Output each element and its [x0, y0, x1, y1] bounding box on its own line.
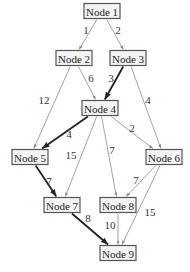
edge-weight-5-7: 7: [46, 175, 52, 187]
edge-weight-3-6: 4: [145, 94, 151, 106]
edge-weight-4-8: 7: [109, 144, 115, 156]
edge-weight-2-4: 6: [88, 72, 94, 84]
edge-weight-2-5: 12: [39, 94, 50, 106]
edge-4-5: [42, 117, 88, 149]
node-1: Node 1: [84, 4, 120, 19]
node-label: Node 8: [102, 200, 135, 212]
node-6: Node 6: [146, 150, 182, 165]
node-5: Node 5: [12, 150, 48, 165]
shortest-path-graph: 1261234421577715810 Node 1Node 2Node 3No…: [0, 0, 190, 272]
edge-weight-3-4: 3: [108, 72, 114, 84]
edge-weight-1-2: 1: [83, 24, 89, 36]
node-7: Node 7: [44, 198, 80, 213]
node-9: Node 9: [100, 246, 136, 261]
nodes-layer: Node 1Node 2Node 3Node 4Node 5Node 6Node…: [12, 4, 182, 261]
node-label: Node 9: [102, 248, 135, 260]
edge-weight-1-3: 2: [115, 24, 121, 36]
edge-weight-7-9: 8: [85, 212, 91, 224]
edge-4-8: [102, 117, 117, 197]
node-3: Node 3: [110, 51, 146, 66]
node-label: Node 6: [148, 152, 181, 164]
node-label: Node 2: [58, 53, 90, 65]
edge-weight-6-9: 15: [145, 206, 157, 218]
node-label: Node 1: [86, 6, 118, 18]
node-4: Node 4: [82, 101, 118, 116]
node-8: Node 8: [100, 198, 136, 213]
edge-weight-4-5: 4: [66, 128, 72, 140]
node-2: Node 2: [56, 51, 92, 66]
edge-weight-6-8: 7: [133, 174, 139, 186]
edge-weight-4-6: 2: [129, 122, 135, 134]
node-label: Node 4: [84, 103, 117, 115]
node-label: Node 7: [46, 200, 79, 212]
edge-weight-4-7: 15: [66, 149, 78, 161]
node-label: Node 5: [14, 152, 47, 164]
edge-weight-8-9: 10: [105, 219, 117, 231]
node-label: Node 3: [112, 53, 145, 65]
edge-3-6: [131, 67, 161, 149]
edge-6-8: [126, 166, 156, 197]
edge-2-5: [34, 67, 70, 149]
